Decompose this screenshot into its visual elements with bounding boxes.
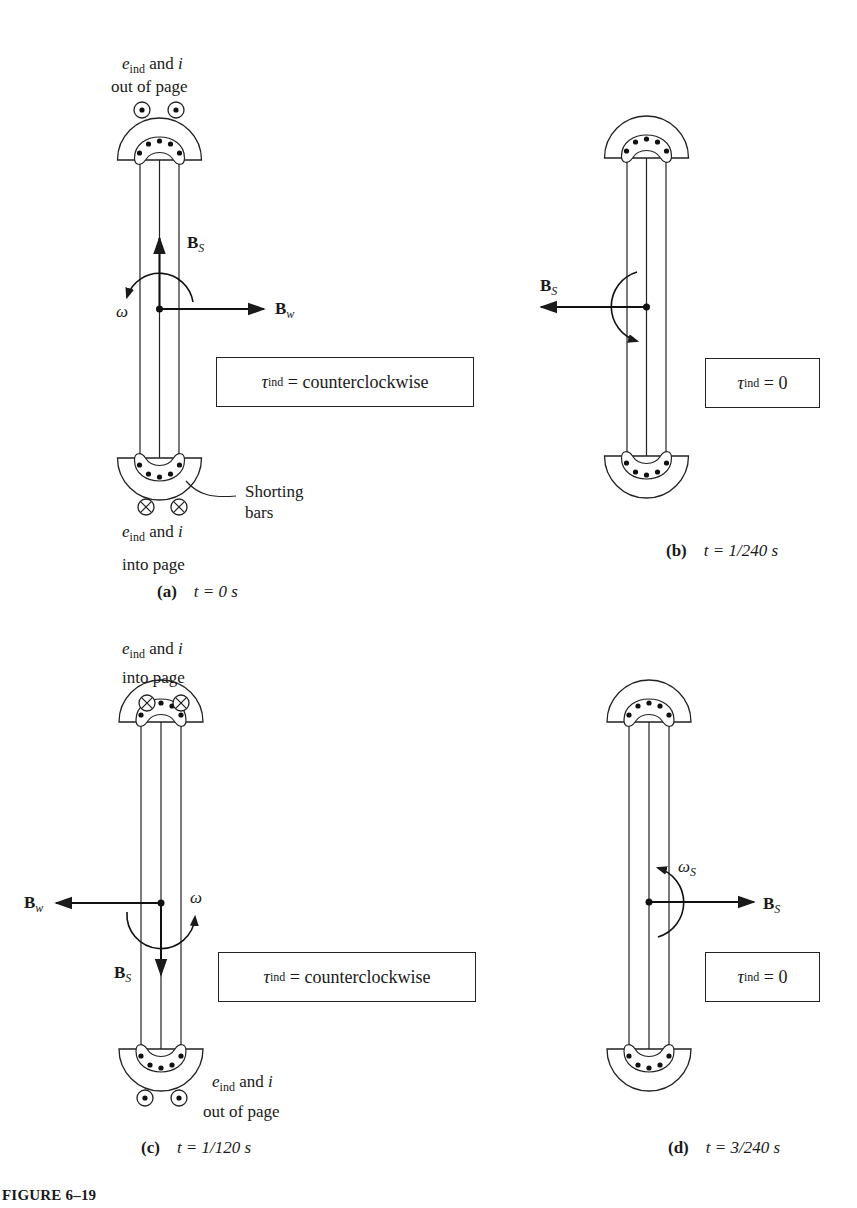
panel-a-bottom-current-direction: into page [122,556,185,573]
figure-title: FIGURE 6–19 [2,1187,96,1204]
panel-d-caption: (d) t = 3/240 s [668,1138,780,1158]
panel-c-torque-box: τind = counterclockwise [218,952,476,1002]
panel-b-bs-label: BS [540,277,557,294]
panel-a-bottom-current-label: eind and i [122,523,183,540]
figure-drawing [0,0,857,1208]
panel-c-bottom-current-label: eind and i [212,1073,273,1090]
panel-d-vectors [646,868,755,937]
shorting-bars-label-line1: Shorting [245,483,304,500]
panel-a-top-current-label: eind and i [122,55,183,72]
panel-b-vectors [541,272,650,341]
panel-c-bottom-current-dots [137,1090,187,1106]
panel-d-torque-box: τind = 0 [705,952,820,1002]
panel-c-omega-label: ω [190,889,202,906]
panel-a-bw-label: Bw [275,300,294,317]
panel-b-torque-box: τind = 0 [705,358,820,408]
panel-c-bs-label: BS [114,964,131,981]
panel-a-bs-label: BS [187,234,204,251]
panel-d-bs-label: BS [763,895,780,912]
panel-c-bottom-current-direction: out of page [203,1103,279,1120]
panel-d-rotor [607,680,691,1091]
shorting-bars-label-line2: bars [245,504,273,521]
panel-a-top-current-dots [134,102,184,118]
panel-c-caption: (c) t = 1/120 s [141,1138,251,1158]
panel-a-caption: (a) t = 0 s [157,582,238,602]
panel-d-omega-label: ωS [678,858,696,875]
panel-c-rotor [119,680,203,1091]
panel-c-bw-label: Bw [24,894,43,911]
panel-c-top-current-direction: into page [122,669,185,686]
panel-a-top-current-direction: out of page [111,78,187,95]
panel-a-omega-label: ω [116,303,128,320]
panel-c-top-current-label: eind and i [122,640,183,657]
panel-a-torque-box: τind = counterclockwise [216,357,474,407]
panel-a-bottom-current-crosses [138,499,187,515]
panel-b-caption: (b) t = 1/240 s [666,541,778,561]
